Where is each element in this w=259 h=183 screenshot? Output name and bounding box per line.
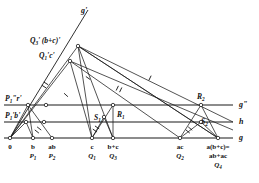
geometry-figure: g'g"hg Q3' (b+c)'Q1'c'P1"r'P1'b'S1R1S2R2…	[0, 0, 259, 183]
point-label-s1: S1	[94, 113, 101, 123]
node-r1	[111, 103, 114, 106]
node-ac	[178, 136, 181, 139]
seg-q3-right	[78, 46, 233, 122]
point-labels: Q3' (b+c)'Q1'c'P1"r'P1'b'S1R1S2R2	[5, 36, 208, 127]
axis-label-g: g	[238, 133, 243, 142]
base-point-c: Q1	[88, 152, 96, 161]
node-s1	[102, 115, 105, 118]
node-abc	[216, 136, 219, 139]
base-point-b-plus-c: Q3	[109, 152, 117, 161]
node-g2-left	[44, 103, 47, 106]
node-h-left	[42, 120, 45, 123]
base-label-c: c	[90, 143, 93, 151]
tick-double-3	[35, 127, 41, 133]
node-ab	[50, 136, 53, 139]
base-label-b: b	[31, 143, 35, 151]
base-label-b-plus-c: b+c	[108, 143, 119, 151]
axis-label-h: h	[239, 117, 244, 126]
base-point-ac: Q2	[176, 152, 184, 161]
tick-single-3	[149, 76, 151, 81]
seg-q3-c	[78, 46, 92, 138]
node-r2	[199, 103, 202, 106]
tick-double-2	[116, 86, 122, 92]
base-label-a-b-plus-c-alt: ab+ac	[209, 152, 227, 160]
node-bc	[111, 136, 114, 139]
base-label-ab: ab	[48, 143, 56, 151]
node-b	[31, 136, 34, 139]
seg-s2-ac	[180, 122, 201, 138]
line-g1	[10, 10, 88, 138]
point-label-q1-c-prime: Q1'c'	[39, 51, 55, 61]
base-point-ab: P2	[49, 152, 56, 161]
point-label-p1-r-prime: P1"r'	[5, 94, 22, 104]
seg-q3-bc	[78, 46, 113, 138]
node-q1c	[68, 59, 71, 62]
baseline-labels: 0bP1abP2cQ1b+cQ3acQ2a(b+c)=ab+acQ4	[8, 143, 229, 170]
base-point-b: P1	[30, 152, 37, 161]
axis-label-g-double: g"	[238, 100, 247, 109]
base-point-a-b-plus-c: Q4	[214, 161, 222, 170]
node-q3bc	[76, 44, 79, 47]
point-label-r1: R1	[116, 110, 125, 120]
seg-q1c-c	[70, 61, 92, 138]
point-label-r2: R2	[196, 92, 205, 102]
axis-label-g-prime: g'	[80, 6, 88, 15]
node-p1r	[26, 103, 29, 106]
node-0	[8, 136, 11, 139]
tick-single-1	[64, 93, 68, 96]
node-c	[90, 136, 93, 139]
point-label-q3-bc-prime: Q3' (b+c)'	[30, 36, 60, 46]
base-label-a-b-plus-c: a(b+c)=	[206, 143, 229, 151]
point-label-p1-b-prime: P1'b'	[5, 111, 20, 121]
node-p1b	[24, 120, 27, 123]
base-label-ac: ac	[177, 143, 184, 151]
point-label-s2: S2	[201, 117, 208, 127]
base-label-origin: 0	[8, 143, 12, 151]
seg-s1-bc	[104, 117, 113, 138]
